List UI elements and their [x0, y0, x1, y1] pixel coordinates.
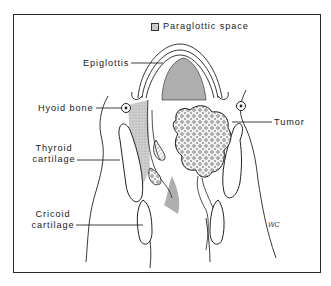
- legend: Paraglottic space: [151, 21, 249, 32]
- epiglottis-inner-hatching: [162, 58, 206, 100]
- ventricle-left: [149, 168, 161, 185]
- cricoid-cartilage-left: [137, 200, 152, 244]
- hyoid-bone-left: [122, 104, 131, 113]
- subglottic-hatching: [164, 176, 179, 214]
- larynx-figure: Paraglottic space Epiglottis Hyoid bone …: [0, 0, 331, 286]
- label-cricoid-line1: Cricoid: [30, 209, 76, 220]
- label-cricoid-cartilage: Cricoid cartilage: [30, 209, 76, 231]
- hyoid-bone-right: [237, 102, 246, 111]
- label-thyroid-line2: cartilage: [30, 154, 78, 165]
- label-hyoid-bone: Hyoid bone: [38, 103, 93, 114]
- artist-signature: WC: [268, 219, 280, 230]
- label-cricoid-line2: cartilage: [30, 220, 76, 231]
- cricoid-cartilage-right: [210, 200, 224, 244]
- paraglottic-space-swatch: [151, 23, 159, 31]
- label-thyroid-cartilage: Thyroid cartilage: [30, 143, 78, 165]
- label-tumor: Tumor: [274, 117, 305, 128]
- tumor: [173, 106, 231, 177]
- legend-label: Paraglottic space: [163, 21, 249, 32]
- label-epiglottis: Epiglottis: [83, 58, 129, 69]
- label-thyroid-line1: Thyroid: [30, 143, 78, 154]
